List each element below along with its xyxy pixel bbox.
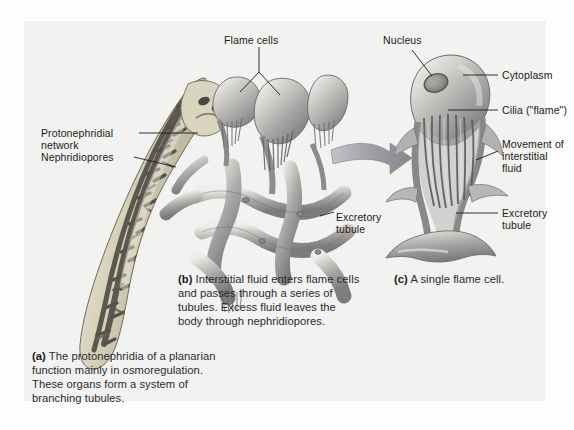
- figure-panel-background: [24, 21, 546, 401]
- figure-root: Flame cells Protonephridial network Neph…: [0, 0, 574, 430]
